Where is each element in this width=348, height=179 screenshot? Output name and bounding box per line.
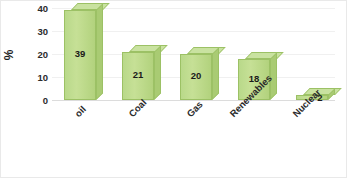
bar-value-label: 20 <box>180 71 212 81</box>
bar-top-face <box>129 45 168 52</box>
y-tick-label: 10 <box>28 73 48 83</box>
bar-top-face <box>187 47 226 54</box>
y-axis: 40 30 20 10 0 <box>22 8 48 108</box>
y-tick-label: 0 <box>28 96 48 106</box>
bar-side-face <box>154 45 161 100</box>
y-tick-label: 40 <box>28 4 48 14</box>
bar-side-face <box>270 52 277 100</box>
bar-side-face <box>212 47 219 100</box>
bar-side-face <box>96 4 103 100</box>
y-axis-title: % <box>2 50 16 61</box>
bar-top-face <box>245 52 284 59</box>
bars-container: 39 21 20 18 <box>52 8 335 100</box>
y-tick-label: 30 <box>28 27 48 37</box>
bar-value-label: 21 <box>122 70 154 80</box>
bar-oil[interactable]: 39 <box>64 10 96 100</box>
y-tick-label: 20 <box>28 50 48 60</box>
bar-gas[interactable]: 20 <box>180 54 212 100</box>
plot-area: 39 21 20 18 <box>52 8 335 108</box>
bar-chart: % 40 30 20 10 0 39 2 <box>0 0 348 179</box>
bar-value-label: 39 <box>64 49 96 59</box>
bar-coal[interactable]: 21 <box>122 52 154 100</box>
bar-top-face <box>71 3 110 10</box>
